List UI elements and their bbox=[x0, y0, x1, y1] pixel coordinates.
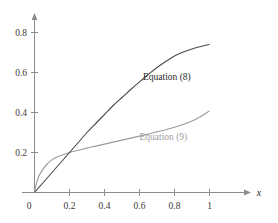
y-axis-arrow-icon bbox=[32, 13, 38, 20]
y-tick-label-0.6: 0.6 bbox=[15, 68, 27, 78]
x-tick-label-0.8: 0.8 bbox=[169, 201, 181, 211]
x-tick-label-1: 1 bbox=[207, 201, 212, 211]
figure-container: 0.2 0.4 0.6 0.8 0 0.2 0.4 0.6 0.8 1 x bbox=[0, 0, 278, 223]
x-axis-label: x bbox=[256, 187, 262, 198]
y-tick-label-0.4: 0.4 bbox=[15, 108, 27, 118]
y-tick-label-0.8: 0.8 bbox=[15, 28, 27, 38]
series-label-equation-9: Equation (9) bbox=[140, 132, 188, 143]
series-line-equation-9 bbox=[35, 111, 210, 193]
x-axis-arrow-icon bbox=[244, 190, 251, 196]
x-axis-tick-labels: 0 0.2 0.4 0.6 0.8 1 bbox=[27, 201, 213, 211]
line-chart: 0.2 0.4 0.6 0.8 0 0.2 0.4 0.6 0.8 1 x bbox=[0, 0, 278, 223]
x-tick-label-0.2: 0.2 bbox=[64, 201, 76, 211]
series-line-equation-8 bbox=[35, 45, 210, 193]
y-tick-label-0.2: 0.2 bbox=[15, 148, 27, 158]
x-tick-label-0: 0 bbox=[27, 201, 32, 211]
x-tick-label-0.6: 0.6 bbox=[134, 201, 146, 211]
y-axis-tick-labels: 0.2 0.4 0.6 0.8 bbox=[15, 28, 27, 158]
series-label-equation-8: Equation (8) bbox=[143, 72, 191, 83]
x-tick-label-0.4: 0.4 bbox=[99, 201, 111, 211]
